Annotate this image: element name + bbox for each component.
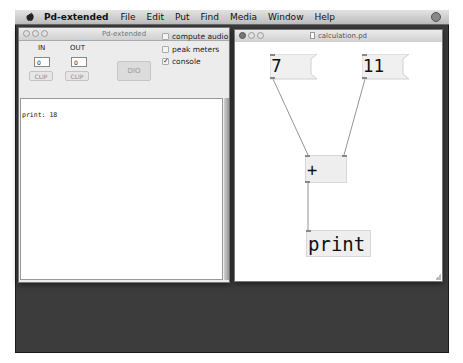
patch-window: calculation.pd 7 11 + print [234, 29, 443, 282]
pd-main-window: Pd-extended IN OUT 0 0 CLIP CLIP DIO com… [18, 27, 230, 283]
menu-put[interactable]: Put [175, 12, 190, 22]
patch-canvas[interactable]: 7 11 + print [235, 42, 442, 281]
left-inlet [305, 155, 310, 157]
menu-bar: Pd-extended File Edit Put Find Media Win… [15, 10, 449, 25]
close-button[interactable] [23, 30, 30, 37]
main-window-title: Pd-extended [102, 30, 146, 38]
clip-out-button[interactable]: CLIP [65, 71, 89, 81]
in-label: IN [38, 44, 45, 52]
minimize-button[interactable] [32, 30, 39, 37]
inlet [362, 54, 367, 56]
compute-audio-label: compute audio [172, 32, 228, 41]
inlet [306, 230, 311, 232]
dio-button[interactable]: DIO [117, 61, 151, 81]
outlet [362, 77, 367, 79]
zoom-button[interactable] [41, 30, 48, 37]
right-inlet [342, 155, 347, 157]
in-level-field[interactable]: 0 [34, 57, 50, 67]
console-output[interactable]: print: 18 [20, 98, 223, 280]
menu-file[interactable]: File [121, 12, 136, 22]
checkbox-icon [162, 46, 169, 53]
compute-audio-checkbox[interactable]: compute audio [162, 32, 228, 41]
menu-help[interactable]: Help [315, 12, 336, 22]
checkbox-icon [162, 33, 169, 40]
print-object[interactable]: print [306, 230, 371, 257]
console-label: console [172, 57, 201, 66]
inlet [270, 54, 275, 56]
menu-find[interactable]: Find [201, 12, 219, 22]
message-box-7[interactable]: 7 [270, 54, 310, 79]
menu-edit[interactable]: Edit [147, 12, 164, 22]
zoom-button[interactable] [257, 32, 264, 39]
outlet [270, 77, 275, 79]
app-menu[interactable]: Pd-extended [44, 12, 109, 22]
status-menu-icon[interactable] [431, 12, 441, 22]
outlet [305, 181, 310, 183]
menu-window[interactable]: Window [268, 12, 304, 22]
patch-window-title: calculation.pd [318, 32, 367, 40]
menu-media[interactable]: Media [230, 12, 257, 22]
checkmark-icon: ✓ [162, 58, 169, 65]
console-scrollbar[interactable] [224, 98, 229, 280]
apple-menu-icon[interactable] [25, 12, 35, 22]
close-button[interactable] [239, 32, 246, 39]
console-checkbox[interactable]: ✓ console [162, 57, 201, 66]
add-object[interactable]: + [305, 155, 347, 183]
out-label: OUT [70, 44, 85, 52]
peak-meters-checkbox[interactable]: peak meters [162, 45, 219, 54]
peak-meters-label: peak meters [172, 45, 219, 54]
document-icon [310, 32, 315, 39]
resize-grip[interactable] [435, 274, 441, 280]
out-level-field[interactable]: 0 [71, 57, 87, 67]
console-line: print: 18 [22, 111, 222, 119]
clip-in-button[interactable]: CLIP [29, 71, 53, 81]
minimize-button[interactable] [248, 32, 255, 39]
message-box-11[interactable]: 11 [362, 54, 402, 79]
